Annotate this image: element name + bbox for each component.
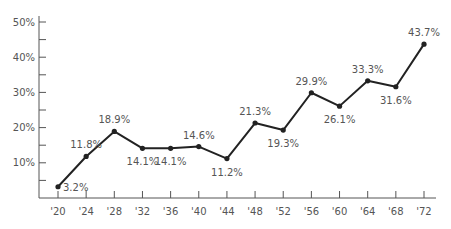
data-label: 29.9% (295, 76, 327, 87)
data-label: 14.6% (183, 130, 215, 141)
data-label: 11.2% (211, 167, 243, 178)
data-label: 14.1% (155, 156, 187, 167)
data-point (281, 127, 286, 132)
data-label: 31.6% (380, 95, 412, 106)
x-axis-ticks: '20'24'28'32'36'40'44'48'52'56'60'64'68'… (50, 191, 431, 217)
data-label: 21.3% (239, 106, 271, 117)
x-tick-label: '32 (135, 206, 150, 217)
y-tick-label: 50% (13, 17, 35, 28)
data-point (252, 120, 257, 125)
x-tick-label: '68 (388, 206, 403, 217)
y-tick-label: 30% (13, 87, 35, 98)
data-point (168, 146, 173, 151)
data-point (224, 156, 229, 161)
chart-canvas: 10%20%30%40%50% '20'24'28'32'36'40'44'48… (0, 0, 451, 229)
x-tick-label: '48 (247, 206, 262, 217)
y-tick-label: 40% (13, 52, 35, 63)
x-tick-label: '44 (219, 206, 234, 217)
x-tick-label: '52 (275, 206, 290, 217)
data-label: 3.2% (63, 182, 88, 193)
data-point (112, 129, 117, 134)
x-tick-label: '40 (191, 206, 206, 217)
data-point (365, 78, 370, 83)
y-axis-ticks: 10%20%30%40%50% (13, 17, 46, 181)
x-tick-label: '24 (78, 206, 93, 217)
data-label: 33.3% (352, 64, 384, 75)
x-tick-label: '56 (304, 206, 319, 217)
data-label: 19.3% (267, 138, 299, 149)
data-labels: 3.2%11.8%18.9%14.1%14.1%14.6%11.2%21.3%1… (63, 27, 440, 193)
data-label: 18.9% (98, 114, 130, 125)
data-point (393, 84, 398, 89)
x-tick-label: '60 (332, 206, 347, 217)
x-tick-label: '20 (50, 206, 65, 217)
data-point (140, 146, 145, 151)
data-label: 11.8% (70, 139, 102, 150)
y-tick-label: 20% (13, 122, 35, 133)
data-point (337, 104, 342, 109)
x-tick-label: '28 (107, 206, 122, 217)
line-chart: 10%20%30%40%50% '20'24'28'32'36'40'44'48… (0, 0, 451, 229)
y-tick-label: 10% (13, 157, 35, 168)
data-label: 26.1% (324, 114, 356, 125)
data-label: 14.1% (127, 156, 159, 167)
x-tick-label: '36 (163, 206, 178, 217)
data-label: 43.7% (408, 27, 440, 38)
x-tick-label: '72 (416, 206, 431, 217)
x-tick-label: '64 (360, 206, 375, 217)
data-point (55, 184, 60, 189)
data-point (309, 90, 314, 95)
data-point (421, 42, 426, 47)
data-point (84, 154, 89, 159)
data-point (196, 144, 201, 149)
